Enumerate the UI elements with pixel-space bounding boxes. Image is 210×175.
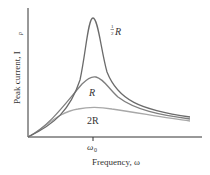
x-axis-label: Frequency, ω [92, 157, 140, 167]
y-axis-label-sub: p [17, 32, 23, 36]
label-half-R: R [114, 26, 121, 37]
y-axis-label: Peak current, I [12, 51, 22, 104]
tick-omega: ω [87, 142, 93, 152]
label-half-den: 2 [111, 31, 114, 36]
label-R: R [88, 87, 95, 98]
resonance-chart: 1 2 R R 2R ω 0 Frequency, ω Peak current… [0, 0, 210, 175]
tick-omega-sub: 0 [94, 147, 97, 153]
label-2R: 2R [87, 115, 99, 126]
label-half-num: 1 [111, 24, 114, 29]
curve-R [28, 77, 190, 137]
